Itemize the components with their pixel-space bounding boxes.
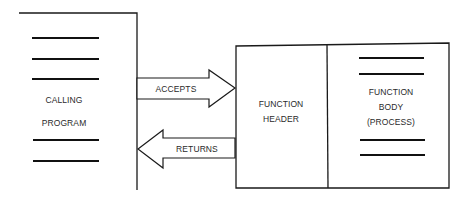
function-call-diagram: CALLING PROGRAM ACCEPTS RETURNS FUNCTION… xyxy=(0,0,473,203)
returns-arrow: RETURNS xyxy=(138,130,235,168)
function-header: FUNCTION HEADER xyxy=(259,99,304,124)
function-body: FUNCTION BODY (PROCESS) xyxy=(359,58,425,155)
header-label-line2: HEADER xyxy=(263,114,299,124)
calling-label-line2: PROGRAM xyxy=(42,118,87,128)
header-body-divider xyxy=(327,45,328,188)
body-label-line3: (PROCESS) xyxy=(367,117,415,127)
returns-label: RETURNS xyxy=(176,144,218,154)
function-box: FUNCTION HEADER FUNCTION BODY (PROCESS) xyxy=(236,43,449,188)
accepts-arrow: ACCEPTS xyxy=(137,70,235,107)
calling-program: CALLING PROGRAM xyxy=(19,13,137,190)
header-label-line1: FUNCTION xyxy=(259,99,304,109)
calling-label-line1: CALLING xyxy=(45,95,82,105)
body-label-line2: BODY xyxy=(379,102,404,112)
accepts-label: ACCEPTS xyxy=(156,84,197,94)
body-label-line1: FUNCTION xyxy=(369,87,414,97)
